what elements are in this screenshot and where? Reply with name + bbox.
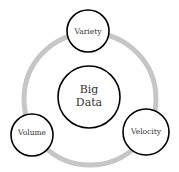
variety-label: Variety bbox=[75, 28, 102, 37]
center-label: Big Data bbox=[76, 84, 102, 109]
volume-label: Volume bbox=[18, 129, 46, 138]
center-label-line2: Data bbox=[76, 97, 102, 110]
velocity-label: Velocity bbox=[131, 128, 161, 137]
center-label-line1: Big bbox=[76, 84, 102, 97]
